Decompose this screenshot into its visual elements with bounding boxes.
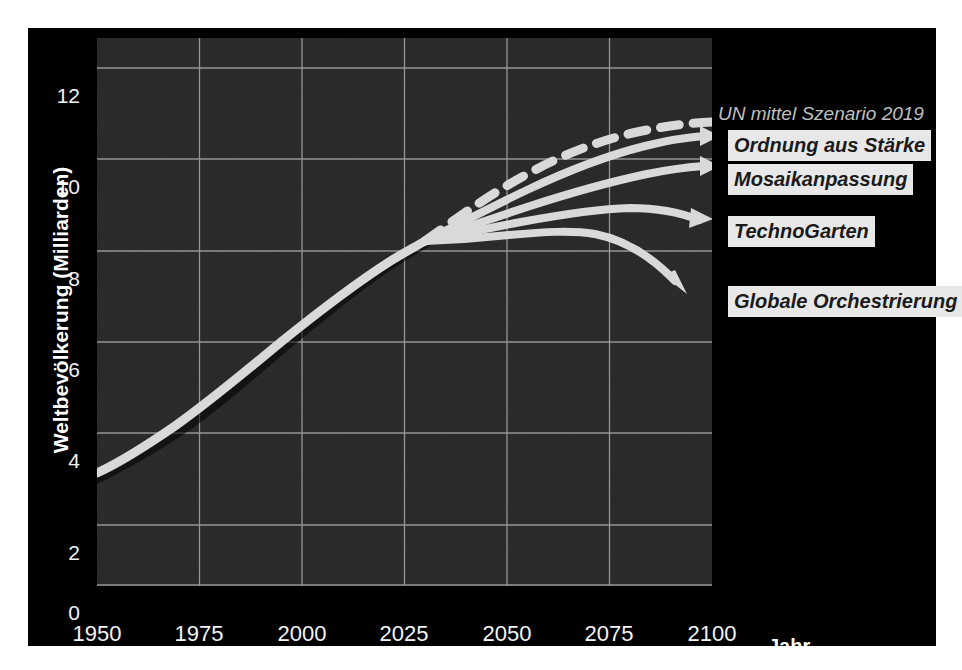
y-axis-title: Weltbevölkerung (Milliarden) xyxy=(49,60,73,560)
x-tick-1975: 1975 xyxy=(154,623,244,645)
chart-figure: 12 10 8 6 4 2 0 1950 1975 2000 2025 2050… xyxy=(0,0,962,670)
x-tick-2100: 2100 xyxy=(667,623,757,645)
series-historic xyxy=(97,241,425,473)
y-tick-0: 0 xyxy=(36,602,80,623)
plot-svg xyxy=(97,38,712,586)
plot-area xyxy=(97,38,712,586)
annotation-globale-orchestrierung: Globale Orchestrierung xyxy=(728,286,962,317)
x-tick-2075: 2075 xyxy=(564,623,654,645)
annotation-un-mittel-szenario: UN mittel Szenario 2019 xyxy=(718,101,924,127)
arrow-techno xyxy=(689,208,712,228)
x-tick-2025: 2025 xyxy=(359,623,449,645)
x-tick-1950: 1950 xyxy=(52,623,142,645)
gridlines xyxy=(97,38,712,586)
x-tick-2050: 2050 xyxy=(462,623,552,645)
series-globale-orchestrierung xyxy=(425,232,675,281)
x-axis-title: Jahr xyxy=(768,635,810,658)
annotation-mosaikanpassung: Mosaikanpassung xyxy=(728,164,913,195)
x-tick-2000: 2000 xyxy=(257,623,347,645)
arrow-ordnung xyxy=(700,126,712,146)
annotation-technogarten: TechnoGarten xyxy=(728,216,875,247)
chart-panel: 12 10 8 6 4 2 0 1950 1975 2000 2025 2050… xyxy=(28,28,936,646)
arrow-global xyxy=(663,270,687,294)
annotation-ordnung-aus-staerke: Ordnung aus Stärke xyxy=(728,130,931,161)
